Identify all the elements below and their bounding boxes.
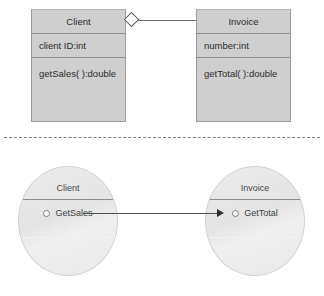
object-divider-invoice <box>206 199 304 200</box>
object-name-invoice: Invoice <box>206 183 304 193</box>
object-circle-client[interactable]: Client GetSales <box>18 166 118 276</box>
hollow-circle-icon <box>232 210 239 217</box>
object-name-client: Client <box>19 183 117 193</box>
class-name-invoice: Invoice <box>197 10 290 34</box>
arrowhead-icon <box>217 209 224 217</box>
class-method-client: getSales( ):double <box>32 58 125 88</box>
hollow-circle-icon <box>43 210 50 217</box>
object-highlight-client <box>19 237 117 238</box>
aggregation-diamond-icon <box>124 12 140 28</box>
class-box-invoice[interactable]: Invoice number:int getTotal( ):double <box>196 9 291 122</box>
class-method-invoice: getTotal( ):double <box>197 58 290 88</box>
diagram-canvas: Client client ID:int getSales( ):double … <box>0 0 324 296</box>
aggregation-line <box>136 20 196 21</box>
object-circle-invoice[interactable]: Invoice GetTotal <box>205 166 305 276</box>
object-divider-client <box>19 199 117 200</box>
section-divider <box>4 137 320 138</box>
class-attribute-invoice: number:int <box>197 34 290 58</box>
object-member-invoice: GetTotal <box>244 208 278 218</box>
class-attribute-client: client ID:int <box>32 34 125 58</box>
class-box-client[interactable]: Client client ID:int getSales( ):double <box>31 9 126 122</box>
class-name-client: Client <box>32 10 125 34</box>
message-line <box>83 213 219 214</box>
object-highlight-invoice <box>206 237 304 238</box>
